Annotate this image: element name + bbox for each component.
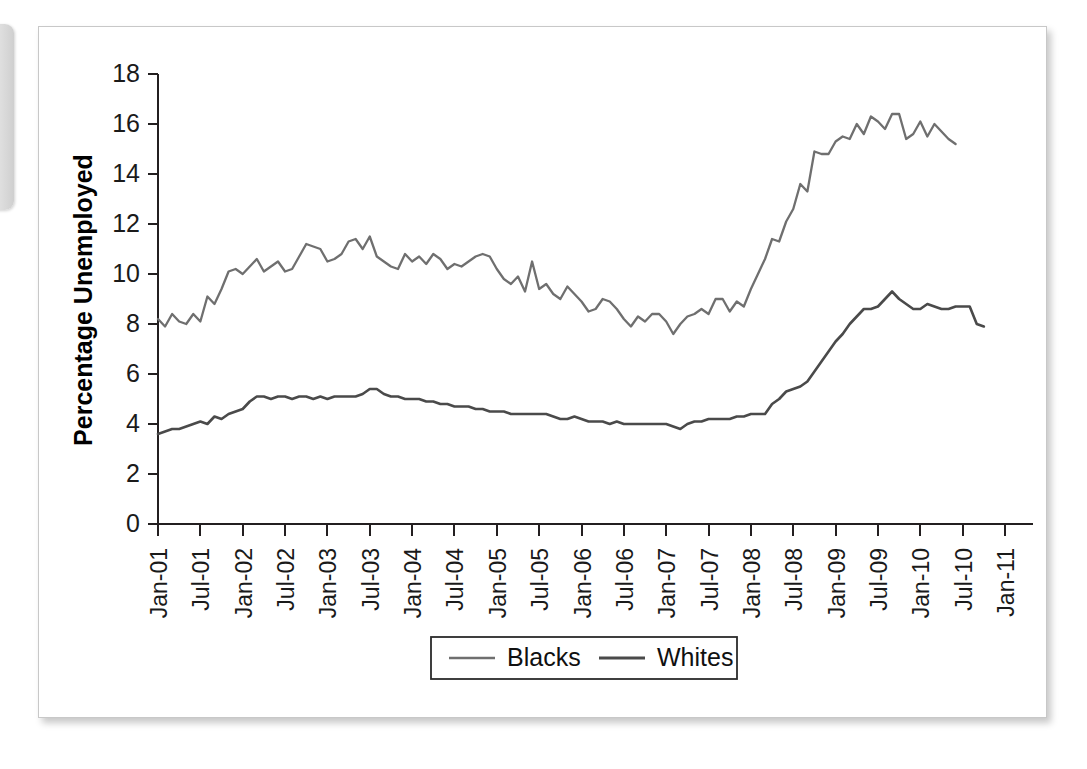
y-tick-label: 10 [112, 259, 140, 287]
y-tick-label: 18 [112, 59, 140, 87]
legend-label-blacks[interactable]: Blacks [507, 643, 581, 671]
screenshot-root: 024681012141618 Jan-01Jul-01Jan-02Jul-02… [0, 0, 1087, 769]
x-tick-label: Jan-03 [315, 548, 341, 618]
x-tick-label: Jan-08 [739, 548, 765, 618]
x-tick-label: Jul-10 [951, 548, 977, 611]
chart-svg: 024681012141618 Jan-01Jul-01Jan-02Jul-02… [0, 0, 1087, 769]
x-tick-label: Jan-11 [993, 548, 1019, 617]
x-tick-label: Jul-05 [527, 548, 553, 611]
x-tick-label: Jan-02 [231, 548, 257, 618]
x-tick-label: Jul-04 [442, 548, 468, 611]
x-tick-label: Jul-06 [612, 548, 638, 611]
y-axis-title: Percentage Unemployed [69, 154, 97, 446]
x-tick-label: Jul-09 [866, 548, 892, 611]
x-tick-label: Jan-05 [485, 548, 511, 618]
legend-label-whites[interactable]: Whites [657, 643, 733, 671]
y-tick-label: 6 [126, 359, 140, 387]
unemployment-line-chart: 024681012141618 Jan-01Jul-01Jan-02Jul-02… [0, 0, 1087, 769]
chart-legend[interactable]: BlacksWhites [431, 637, 737, 679]
x-axis: Jan-01Jul-01Jan-02Jul-02Jan-03Jul-03Jan-… [146, 524, 1033, 618]
x-tick-label: Jul-02 [273, 548, 299, 611]
x-tick-label: Jan-07 [654, 548, 680, 618]
series-line-blacks [158, 114, 956, 334]
x-tick-label: Jul-03 [358, 548, 384, 611]
y-tick-label: 12 [112, 209, 140, 237]
x-tick-label: Jan-09 [824, 548, 850, 618]
x-tick-label: Jan-10 [908, 548, 934, 618]
y-tick-label: 16 [112, 109, 140, 137]
y-axis: 024681012141618 [112, 59, 158, 537]
x-tick-label: Jan-06 [570, 548, 596, 618]
x-tick-label: Jul-08 [781, 548, 807, 611]
y-tick-label: 8 [126, 309, 140, 337]
y-tick-label: 2 [126, 459, 140, 487]
x-tick-label: Jul-01 [188, 548, 214, 611]
x-tick-label: Jan-04 [400, 548, 426, 619]
y-tick-label: 14 [112, 159, 140, 187]
series-lines [158, 114, 984, 434]
series-line-whites [158, 292, 984, 435]
x-tick-label: Jul-07 [697, 548, 723, 611]
y-tick-label: 0 [126, 509, 140, 537]
y-tick-label: 4 [126, 409, 140, 437]
x-tick-label: Jan-01 [146, 548, 172, 618]
